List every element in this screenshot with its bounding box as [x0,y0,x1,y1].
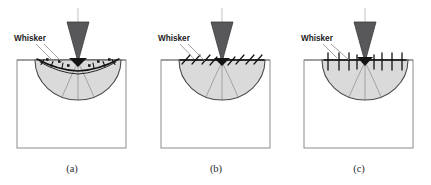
figure-root: Whisker (a) [0,0,431,185]
whisker-leader-lines [323,44,349,60]
whisker-label: Whisker [158,34,191,43]
indenter-cone [67,22,89,62]
panel-caption: (a) [66,163,78,175]
panel-b: Whisker (b) [144,0,288,185]
whisker-label: Whisker [14,34,47,43]
panel-a: Whisker (a) [0,0,144,185]
whisker-leader-lines [36,44,62,62]
panel-caption: (b) [210,163,223,175]
indenter-cone [211,22,233,62]
whisker-label: Whisker [301,34,334,43]
panel-c: Whisker (c) [287,0,431,185]
panel-caption: (c) [353,163,365,175]
whisker-leader-lines [180,44,205,61]
